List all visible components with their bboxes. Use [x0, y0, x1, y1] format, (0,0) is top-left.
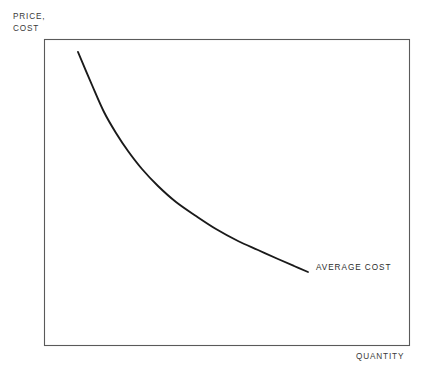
- x-axis-title: QUANTITY: [356, 351, 404, 363]
- average-cost-curve: [78, 52, 308, 272]
- average-cost-curve-label: AVERAGE COST: [316, 263, 391, 272]
- plot-frame: [45, 40, 410, 346]
- plot-area: [0, 0, 431, 373]
- chart-figure: PRICE, COST AVERAGE COST QUANTITY: [0, 0, 431, 373]
